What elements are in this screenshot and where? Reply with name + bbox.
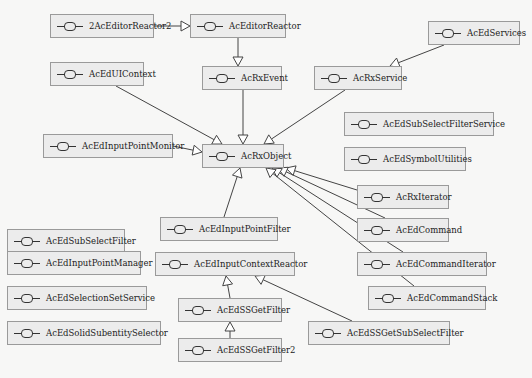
class-node-label: AcRxService bbox=[353, 73, 413, 83]
class-interface-icon bbox=[50, 141, 76, 151]
class-node[interactable]: AcEdUIContext bbox=[50, 62, 144, 86]
class-node[interactable]: AcEdSubSelectFilter bbox=[7, 229, 125, 253]
class-node-label: AcEdSSGetSubSelectFilter bbox=[347, 328, 470, 338]
class-node-label: AcEdSSGetFilter2 bbox=[217, 345, 302, 355]
class-interface-icon bbox=[351, 119, 377, 129]
class-node-label: AcEdCommandIterator bbox=[396, 259, 502, 269]
hollow-arrowhead-icon bbox=[181, 21, 190, 31]
class-node[interactable]: AcEdSolidSubentitySelector bbox=[7, 321, 161, 345]
class-node-label: AcEdSymbolUtilities bbox=[383, 154, 478, 164]
class-node[interactable]: AcEdSSGetFilter bbox=[178, 298, 282, 322]
class-node[interactable]: AcEdSymbolUtilities bbox=[344, 147, 466, 171]
class-node-label: AcEdSolidSubentitySelector bbox=[46, 328, 174, 338]
class-node[interactable]: AcEdSelectionSetService bbox=[7, 286, 147, 310]
inheritance-edge bbox=[224, 177, 237, 217]
class-interface-icon bbox=[364, 225, 390, 235]
class-node[interactable]: 2AcEditorReactor2 bbox=[50, 14, 154, 38]
class-interface-icon bbox=[197, 21, 223, 31]
class-interface-icon bbox=[209, 73, 235, 83]
class-interface-icon bbox=[57, 21, 83, 31]
class-node-label: AcEdSubSelectFilter bbox=[46, 236, 142, 246]
class-node-label: AcEdInputPointFilter bbox=[199, 224, 297, 234]
class-interface-icon bbox=[14, 328, 40, 338]
class-node-label: AcEdCommandStack bbox=[407, 293, 504, 303]
class-interface-icon bbox=[167, 224, 193, 234]
class-node-label: AcEdServices bbox=[467, 28, 532, 38]
class-node[interactable]: AcEdInputPointMonitor bbox=[43, 134, 173, 158]
class-node[interactable]: AcEdSubSelectFilterService bbox=[344, 112, 494, 136]
class-node[interactable]: AcRxEvent bbox=[202, 66, 282, 90]
class-interface-icon bbox=[315, 328, 341, 338]
class-interface-icon bbox=[351, 154, 377, 164]
class-node-label: AcRxIterator bbox=[396, 192, 458, 202]
class-node-label: 2AcEditorReactor2 bbox=[89, 21, 178, 31]
class-node[interactable]: AcRxObject bbox=[202, 144, 284, 168]
class-node-label: AcEdInputContextReactor bbox=[194, 259, 313, 269]
inheritance-edge bbox=[228, 285, 230, 298]
class-node[interactable]: AcEdSSGetSubSelectFilter bbox=[308, 321, 450, 345]
class-node[interactable]: AcEdInputPointManager bbox=[7, 251, 141, 275]
class-interface-icon bbox=[14, 258, 40, 268]
class-node[interactable]: AcRxService bbox=[314, 66, 402, 90]
class-interface-icon bbox=[364, 192, 390, 202]
class-node[interactable]: AcEdCommandStack bbox=[368, 286, 486, 310]
class-node-label: AcEdSubSelectFilterService bbox=[383, 119, 511, 129]
class-node[interactable]: AcEdInputPointFilter bbox=[160, 217, 278, 241]
class-interface-icon bbox=[321, 73, 347, 83]
hollow-arrowhead-icon bbox=[232, 168, 242, 178]
class-node-label: AcEdInputPointMonitor bbox=[82, 141, 190, 151]
class-node-label: AcRxObject bbox=[241, 151, 297, 161]
class-interface-icon bbox=[364, 259, 390, 269]
class-node[interactable]: AcEdServices bbox=[428, 21, 520, 45]
hollow-arrowhead-icon bbox=[225, 322, 235, 331]
inheritance-edge bbox=[271, 90, 345, 139]
class-node[interactable]: AcEdInputContextReactor bbox=[155, 252, 295, 276]
class-node[interactable]: AcEdSSGetFilter2 bbox=[178, 338, 282, 362]
class-interface-icon bbox=[375, 293, 401, 303]
class-node[interactable]: AcEdCommand bbox=[357, 218, 449, 242]
class-node-label: AcRxEvent bbox=[241, 73, 294, 83]
hollow-arrowhead-icon bbox=[233, 57, 243, 66]
class-node-label: AcEdSSGetFilter bbox=[217, 305, 296, 315]
class-interface-icon bbox=[14, 293, 40, 303]
class-node-label: AcEditorReactor bbox=[229, 21, 307, 31]
hollow-arrowhead-icon bbox=[223, 276, 233, 286]
inheritance-edge bbox=[116, 86, 214, 140]
class-node[interactable]: AcRxIterator bbox=[357, 185, 449, 209]
class-interface-icon bbox=[162, 259, 188, 269]
class-node-label: AcEdCommand bbox=[396, 225, 468, 235]
class-interface-icon bbox=[209, 151, 235, 161]
class-node-label: AcEdSelectionSetService bbox=[46, 293, 161, 303]
class-node-label: AcEdInputPointManager bbox=[46, 258, 159, 268]
class-interface-icon bbox=[57, 69, 83, 79]
class-node[interactable]: AcEditorReactor bbox=[190, 14, 286, 38]
hollow-arrowhead-icon bbox=[264, 135, 274, 144]
class-node-label: AcEdUIContext bbox=[89, 69, 162, 79]
class-interface-icon bbox=[14, 236, 40, 246]
hollow-arrowhead-icon bbox=[238, 135, 248, 144]
class-node[interactable]: AcEdCommandIterator bbox=[357, 252, 487, 276]
class-interface-icon bbox=[435, 28, 461, 38]
class-interface-icon bbox=[185, 345, 211, 355]
hollow-arrowhead-icon bbox=[192, 145, 202, 155]
class-interface-icon bbox=[185, 305, 211, 315]
inheritance-edge bbox=[398, 45, 444, 63]
